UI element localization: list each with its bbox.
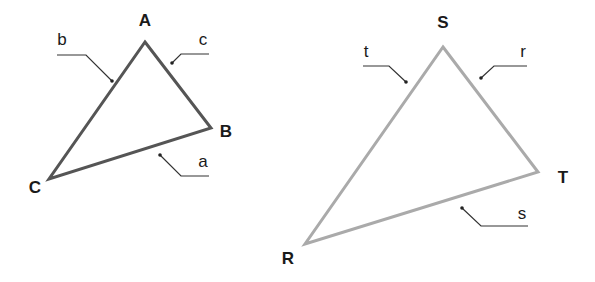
vertex-label-c: C <box>29 178 41 197</box>
side-t-leader-dot <box>404 80 408 84</box>
vertex-label-t: T <box>558 168 569 187</box>
side-b-leader-line <box>57 55 112 81</box>
side-c-leader-dot <box>170 61 174 65</box>
vertex-label-b: B <box>220 122 232 141</box>
side-r-leader-line <box>481 66 527 78</box>
triangle-rst: strSTR <box>282 13 569 268</box>
triangle-abc: abcABC <box>29 11 232 197</box>
triangle-rst-outline <box>305 47 538 244</box>
side-r-leader-dot <box>479 76 483 80</box>
side-label-b: b <box>57 30 66 49</box>
side-c-leader-line <box>172 54 209 63</box>
triangle-abc-outline <box>49 42 211 179</box>
side-label-a: a <box>198 152 208 171</box>
side-label-r: r <box>520 42 526 61</box>
triangles-diagram: abcABC strSTR <box>0 0 595 282</box>
side-label-s: s <box>518 204 527 223</box>
side-label-t: t <box>364 42 369 61</box>
side-b-leader-dot <box>110 79 114 83</box>
side-a-leader-dot <box>158 153 162 157</box>
vertex-label-a: A <box>139 11 151 30</box>
vertex-label-r: R <box>282 249 294 268</box>
vertex-label-s: S <box>437 13 448 32</box>
side-label-c: c <box>199 30 208 49</box>
side-s-leader-dot <box>460 206 464 210</box>
side-t-leader-line <box>363 66 406 82</box>
